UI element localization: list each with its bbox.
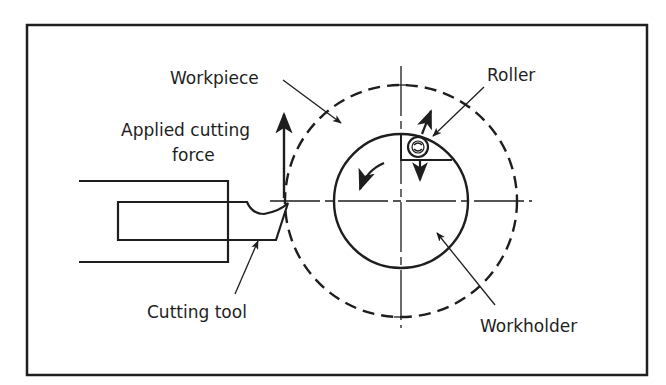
workholder-leader xyxy=(437,233,495,305)
roller xyxy=(408,137,428,157)
rotation-direction-arrow xyxy=(360,163,384,189)
cutting-tool-leader xyxy=(235,241,258,294)
roller-force-up-arrow xyxy=(422,111,431,134)
lathe-cutting-force-diagram: Workpiece Applied cutting force Roller C… xyxy=(0,0,666,385)
workpiece-label: Workpiece xyxy=(170,68,259,88)
workpiece-leader xyxy=(283,80,341,123)
workholder-label: Workholder xyxy=(480,316,577,336)
cutting-tool-label: Cutting tool xyxy=(147,302,247,322)
cutting-tool-shape xyxy=(118,202,288,240)
applied-force-label-line1: Applied cutting xyxy=(121,120,250,140)
applied-force-label-line2: force xyxy=(172,145,215,165)
roller-label: Roller xyxy=(487,65,535,85)
tool-holder xyxy=(79,181,228,262)
